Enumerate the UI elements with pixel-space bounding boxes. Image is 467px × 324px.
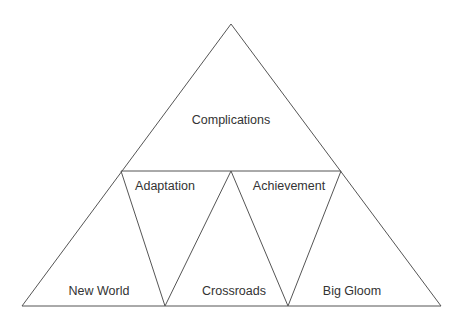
outer-left-edge bbox=[22, 24, 231, 306]
region-label-big-gloom: Big Gloom bbox=[323, 285, 381, 298]
triangle-diagram-lines bbox=[0, 0, 467, 324]
region-label-crossroads: Crossroads bbox=[202, 285, 266, 298]
region-label-complications: Complications bbox=[192, 114, 271, 127]
region-label-new-world: New World bbox=[69, 285, 130, 298]
region-label-adaptation: Adaptation bbox=[135, 180, 195, 193]
outer-right-edge bbox=[231, 24, 441, 306]
diagram-canvas: Complications Adaptation Achievement New… bbox=[0, 0, 467, 324]
region-label-achievement: Achievement bbox=[253, 180, 325, 193]
